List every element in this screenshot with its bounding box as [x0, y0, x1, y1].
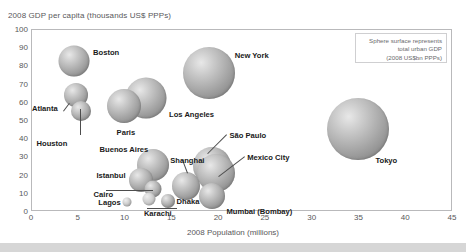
- bubble-houston[interactable]: [71, 101, 91, 121]
- x-tick-label: 30: [307, 213, 316, 222]
- bubble-label: Karachi: [144, 209, 172, 218]
- bubble-label: Houston: [37, 139, 68, 148]
- bubble-label: Tokyo: [375, 156, 397, 165]
- bubble-label: Mumbai (Bombay): [226, 207, 292, 216]
- x-tick-label: 5: [76, 213, 80, 222]
- y-axis-ticks: 0102030405060708090100: [0, 29, 28, 211]
- y-tick-label: 70: [2, 79, 28, 88]
- x-tick-label: 20: [214, 213, 223, 222]
- bubble-karachi[interactable]: [142, 193, 155, 206]
- y-tick-label: 30: [2, 152, 28, 161]
- legend-line-3: (2008 US$bn PPPs): [356, 54, 442, 62]
- x-axis-label: 2008 Population (millions): [0, 228, 466, 237]
- y-tick-label: 60: [2, 97, 28, 106]
- legend-box: Sphere surface represents total urban GD…: [355, 33, 447, 63]
- legend-line-2: total urban GDP: [356, 45, 442, 53]
- bubble-tokyo[interactable]: [327, 98, 389, 160]
- bubble-label: Boston: [93, 48, 119, 57]
- footer-strip: [0, 243, 466, 252]
- bubble-mumbai-bombay[interactable]: [199, 183, 225, 209]
- y-tick-label: 90: [2, 43, 28, 52]
- bubble-paris[interactable]: [107, 89, 141, 123]
- x-tick-label: 45: [448, 213, 457, 222]
- chart-title: 2008 GDP per capita (thousands US$ PPPs): [8, 11, 171, 20]
- x-tick-label: 40: [401, 213, 410, 222]
- y-tick-label: 10: [2, 188, 28, 197]
- y-tick-label: 100: [2, 25, 28, 34]
- y-tick-label: 20: [2, 170, 28, 179]
- bubble-dhaka[interactable]: [161, 194, 175, 208]
- y-tick-label: 0: [2, 207, 28, 216]
- bubble-label: Lagos: [98, 198, 120, 207]
- bubble-label: Los Angeles: [169, 110, 214, 119]
- bubble-label: Shanghai: [170, 156, 204, 165]
- leader-atlanta: [63, 103, 70, 112]
- legend-line-1: Sphere surface represents: [356, 37, 442, 45]
- bubble-label: New York: [235, 51, 269, 60]
- x-tick-label: 10: [120, 213, 129, 222]
- bubble-lagos[interactable]: [123, 197, 132, 206]
- bubble-label: Dhaka: [177, 197, 200, 206]
- x-tick-label: 35: [354, 213, 363, 222]
- bubble-label: Atlanta: [32, 104, 58, 113]
- bubble-shanghai[interactable]: [172, 172, 200, 200]
- bubble-label: São Paulo: [229, 131, 266, 140]
- bubble-new-york[interactable]: [183, 47, 235, 99]
- y-tick-label: 40: [2, 134, 28, 143]
- bubble-label: Paris: [117, 128, 136, 137]
- y-tick-label: 50: [2, 116, 28, 125]
- leader-houston: [80, 109, 81, 135]
- bubble-label: Buenos Aires: [100, 145, 149, 154]
- y-tick-label: 80: [2, 61, 28, 70]
- x-tick-label: 0: [29, 213, 33, 222]
- chart-root: 2008 GDP per capita (thousands US$ PPPs)…: [0, 0, 466, 252]
- bubble-label: Mexico City: [247, 153, 289, 162]
- bubble-label: Istanbul: [96, 171, 125, 180]
- bubble-boston[interactable]: [59, 45, 90, 76]
